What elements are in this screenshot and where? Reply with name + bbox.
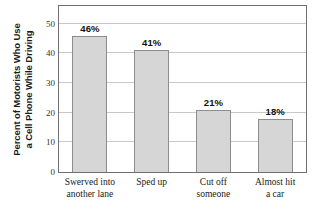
- x-category-label-line: Almost hit: [235, 176, 315, 188]
- x-axis-category-labels: Swerved intoanother laneSped upCut offso…: [58, 176, 307, 209]
- bar: [72, 36, 107, 172]
- plot-area: 46%41%21%18%: [58, 5, 307, 173]
- x-category-label: Almost hita car: [235, 176, 315, 200]
- bar-chart: Percent of Motorists Who Use a Cell Phon…: [0, 0, 317, 209]
- y-tick-label: 30: [14, 78, 58, 88]
- bar: [258, 119, 293, 172]
- bar: [196, 110, 231, 172]
- y-tick-label: 40: [14, 48, 58, 58]
- y-tick-label: 20: [14, 108, 58, 118]
- bar-value-label: 41%: [122, 37, 182, 48]
- bar-value-label: 21%: [183, 97, 243, 108]
- x-category-label-line: another lane: [50, 188, 130, 200]
- y-tick-label: 50: [14, 19, 58, 29]
- x-category-label-line: a car: [235, 188, 315, 200]
- bar: [134, 50, 169, 172]
- bars-layer: 46%41%21%18%: [59, 6, 306, 172]
- y-tick-label: 10: [14, 137, 58, 147]
- bar-value-label: 46%: [60, 23, 120, 34]
- bar-value-label: 18%: [245, 106, 305, 117]
